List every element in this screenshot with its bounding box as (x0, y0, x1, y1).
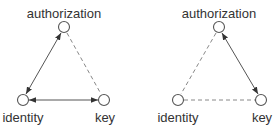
label-authorization: authorization (27, 6, 101, 21)
label-identity: identity (157, 110, 199, 125)
right-triangle-diagram: authorization identity key (157, 6, 272, 125)
node-key[interactable] (256, 95, 267, 106)
node-authorization[interactable] (214, 22, 225, 33)
node-authorization[interactable] (59, 22, 70, 33)
label-authorization: authorization (182, 6, 256, 21)
edge-authorization-identity-dashed (181, 33, 216, 94)
node-identity[interactable] (173, 95, 184, 106)
edge-authorization-key-dashed (67, 33, 101, 94)
label-identity: identity (2, 110, 44, 125)
edge-authorization-identity-solid (26, 33, 61, 94)
label-key: key (95, 110, 116, 125)
node-identity[interactable] (18, 95, 29, 106)
edge-authorization-key-solid (222, 33, 258, 94)
diagram-canvas: authorization identity key authorization… (0, 0, 280, 131)
left-triangle-diagram: authorization identity key (2, 6, 115, 125)
label-key: key (252, 110, 273, 125)
node-key[interactable] (99, 95, 110, 106)
